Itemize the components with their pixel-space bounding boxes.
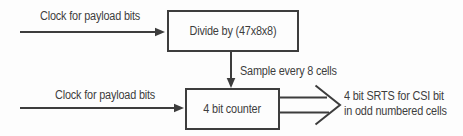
output-label-line2: in odd numbered cells <box>344 104 447 119</box>
divider-block-label: Divide by (47x8x8) <box>190 24 277 38</box>
sample-label: Sample every 8 cells <box>240 64 337 78</box>
output-label: 4 bit SRTS for CSI bit in odd numbered c… <box>344 89 447 119</box>
output-label-line1: 4 bit SRTS for CSI bit <box>344 89 447 104</box>
sample-arrow <box>227 51 236 88</box>
counter-block: 4 bit counter <box>185 88 280 130</box>
divider-block: Divide by (47x8x8) <box>167 10 299 52</box>
output-block-arrow <box>280 86 340 125</box>
clock-top-arrow <box>20 28 165 37</box>
clock-top-label: Clock for payload bits <box>40 9 140 23</box>
clock-bottom-arrow <box>20 104 184 113</box>
counter-block-label: 4 bit counter <box>204 102 262 116</box>
block-diagram: Clock for payload bits Clock for payload… <box>0 0 463 136</box>
clock-bottom-label: Clock for payload bits <box>55 88 155 102</box>
